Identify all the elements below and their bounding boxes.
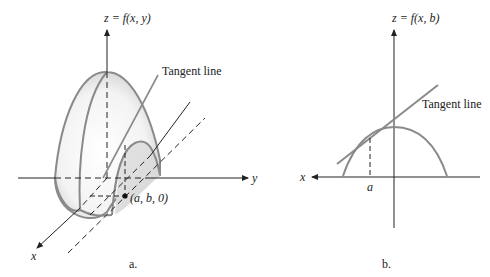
caption-b: b. [382, 257, 391, 271]
tangent-label-a: Tangent line [162, 64, 221, 78]
z-axis-label-a: z = f(x, y) [103, 11, 151, 25]
point-label: (a, b, 0) [130, 191, 168, 205]
x-axis-label-a: x [30, 249, 37, 263]
tangent-label-b: Tangent line [422, 97, 481, 111]
z-axis-label-b: z = f(x, b) [391, 11, 439, 25]
point-ab0 [122, 193, 127, 198]
curve-b [343, 127, 447, 176]
plane-line-solid [150, 102, 190, 156]
caption-a: a. [129, 257, 137, 271]
figure-b: z = f(x, b) Tangent line x a b. [299, 11, 481, 271]
y-axis-label: y [251, 171, 258, 185]
x-axis-label-b: x [299, 170, 306, 184]
tick-label-a: a [367, 180, 373, 194]
figure: z = f(x, y) Tangent line y x (a, b, 0) a… [0, 0, 490, 277]
x-axis [37, 208, 80, 248]
figure-a: z = f(x, y) Tangent line y x (a, b, 0) a… [18, 11, 258, 271]
